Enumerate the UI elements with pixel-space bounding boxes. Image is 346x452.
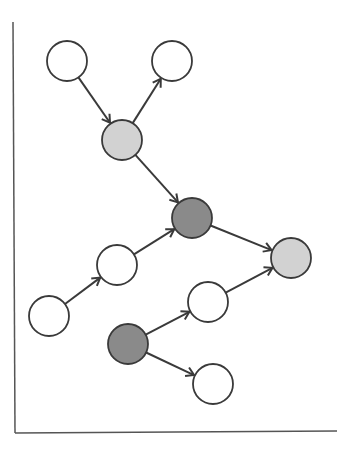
node-n9-dark: [108, 324, 148, 364]
edge-n9-n10: [146, 353, 194, 377]
node-n8-white: [188, 282, 228, 322]
nodes: [29, 41, 311, 404]
node-n10-white: [193, 364, 233, 404]
node-n7-white: [29, 296, 69, 336]
node-n3-light: [102, 120, 142, 160]
edge-n3-n4: [135, 155, 178, 202]
edge-n3-n2: [133, 79, 161, 123]
edge-n9-n8: [146, 311, 190, 335]
horizontal-axis-line: [15, 431, 337, 433]
node-n4-dark: [172, 198, 212, 238]
edge-n4-n5: [211, 225, 272, 251]
edge-n6-n4: [134, 229, 174, 254]
node-n6-white: [97, 245, 137, 285]
edge-n7-n6: [65, 278, 100, 304]
node-n2-white: [152, 41, 192, 81]
graph-diagram: [0, 0, 346, 452]
vertical-axis-line: [13, 22, 15, 433]
node-n5-light: [271, 238, 311, 278]
edge-n8-n5: [226, 267, 273, 292]
edge-n1-n3: [78, 77, 110, 122]
node-n1-white: [47, 41, 87, 81]
edges: [65, 77, 272, 376]
